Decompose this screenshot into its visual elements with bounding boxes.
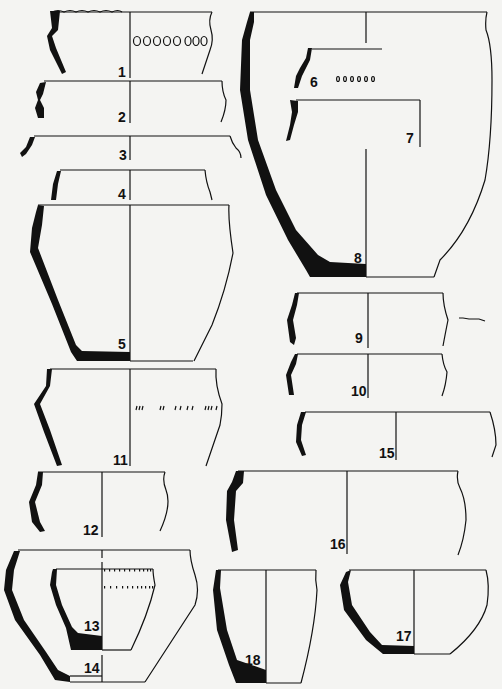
vessel-5: 5 xyxy=(30,205,233,361)
vessel-label: 3 xyxy=(119,147,127,163)
vessel-label: 13 xyxy=(84,618,100,634)
vessel-3: 3 xyxy=(20,136,241,163)
vessel-label: 15 xyxy=(379,445,395,461)
vessel-4: 4 xyxy=(51,170,212,202)
vessel-label: 6 xyxy=(310,74,318,90)
stray-mark xyxy=(459,318,485,321)
vessel-9: 9 xyxy=(287,293,448,348)
vessel-label: 16 xyxy=(330,536,346,552)
vessel-label: 17 xyxy=(396,628,412,644)
vessel-label: 18 xyxy=(245,652,261,668)
vessel-label: 10 xyxy=(351,383,367,399)
vessel-label: 12 xyxy=(83,522,99,538)
vessel-label: 1 xyxy=(118,64,126,80)
vessel-label: 5 xyxy=(118,336,126,352)
vessel-1: 1 xyxy=(47,11,212,81)
vessel-16: 16 xyxy=(226,471,466,555)
vessel-label: 8 xyxy=(354,250,362,266)
vessel-label: 7 xyxy=(406,130,414,146)
vessel-13: 13 xyxy=(50,562,155,650)
vessel-11: 11 xyxy=(34,369,222,468)
incision-row xyxy=(136,406,217,410)
vessel-6: 6 xyxy=(294,48,382,90)
vessel-15: 15 xyxy=(296,412,496,461)
vessel-14: 14 xyxy=(4,550,198,682)
vessel-2: 2 xyxy=(35,81,226,125)
oval-impression-row xyxy=(337,77,375,82)
vessel-18: 18 xyxy=(213,570,317,683)
vessel-label: 4 xyxy=(118,186,126,202)
vessel-label: 14 xyxy=(84,660,100,676)
oval-decoration-band xyxy=(134,37,208,46)
vessel-12: 12 xyxy=(29,472,168,538)
pottery-plate: 1 2 3 4 5 8 xyxy=(0,0,502,689)
vessel-8: 8 xyxy=(240,12,492,277)
vessel-10: 10 xyxy=(286,354,447,399)
vessel-17: 17 xyxy=(340,570,488,654)
impression-rows xyxy=(104,569,153,589)
vessel-7: 7 xyxy=(286,100,420,147)
vessel-label: 2 xyxy=(118,109,126,125)
vessel-label: 9 xyxy=(355,330,363,346)
vessel-label: 11 xyxy=(113,452,128,468)
